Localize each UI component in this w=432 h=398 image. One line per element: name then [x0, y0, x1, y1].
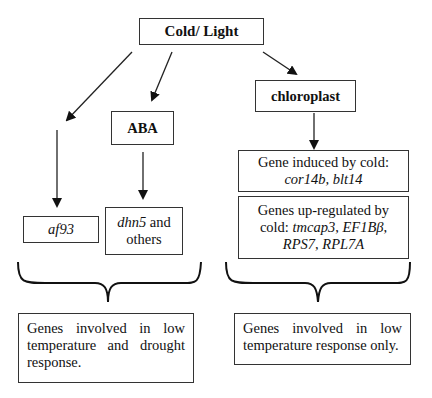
gene-ef1b: EF1Bβ — [342, 219, 383, 235]
gene-rps7: RPS7 — [283, 236, 315, 252]
dhn5-gene: dhn5 — [117, 214, 146, 230]
gene-rpl7a: RPL7A — [322, 236, 364, 252]
cold-induced-genes-node: Gene induced by cold: cor14b, blt14 — [238, 150, 409, 192]
right-summary-text: Genes involved in low temperature respon… — [243, 320, 402, 354]
arrow-root-to-aba — [152, 52, 172, 100]
right-brace — [226, 262, 410, 302]
aba-label: ABA — [127, 120, 158, 137]
af93-label: af93 — [48, 221, 74, 238]
root-label: Cold/ Light — [165, 23, 239, 40]
aba-node: ABA — [111, 111, 174, 145]
right-summary-box: Genes involved in low temperature respon… — [234, 313, 411, 365]
gene-tmcap3: tmcap3 — [293, 219, 336, 235]
upregulated-genes-node: Genes up-regulated by cold: tmcap3, EF1B… — [238, 196, 409, 259]
arrow-root-to-chloroplast — [263, 52, 296, 74]
left-brace — [18, 262, 201, 302]
arrow-root-to-af93 — [67, 52, 132, 120]
af93-node: af93 — [23, 216, 99, 243]
chloroplast-node: chloroplast — [255, 80, 356, 112]
left-summary-text: Genes involved in low temperature and dr… — [27, 320, 185, 371]
cold-induced-genes: cor14b, blt14 — [284, 171, 362, 187]
left-summary-box: Genes involved in low temperature and dr… — [18, 313, 194, 383]
dhn5-node: dhn5 and others — [105, 207, 183, 255]
cold-induced-prefix: Gene induced by cold: — [258, 154, 389, 171]
chloroplast-label: chloroplast — [271, 88, 340, 105]
separator: , — [383, 219, 387, 235]
root-node-cold-light: Cold/ Light — [139, 18, 264, 45]
